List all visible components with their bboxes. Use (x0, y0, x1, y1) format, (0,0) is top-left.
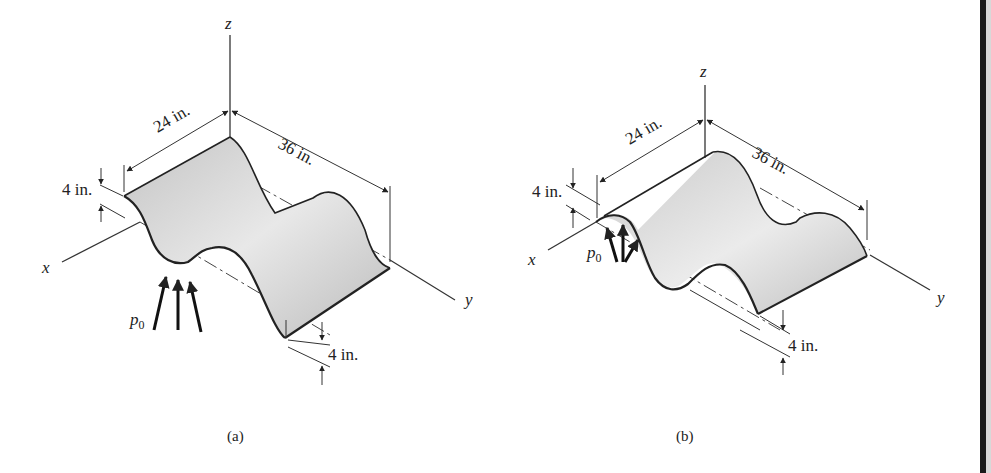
x-axis-a (62, 222, 140, 262)
load-label-b: p0 (587, 243, 602, 266)
load-arrows-a (154, 277, 201, 332)
dim-4-bottom-label-a: 4 in. (328, 345, 358, 365)
dim-4-top-label-b: 4 in. (532, 182, 562, 202)
z-axis-label-a: z (225, 14, 232, 34)
figure-b (548, 85, 930, 375)
x-axis-label-a: x (42, 258, 50, 278)
z-axis-label-b: z (700, 62, 707, 82)
dim-4-top-label-a: 4 in. (62, 180, 92, 200)
y-axis-label-a: y (465, 290, 473, 310)
x-axis-label-b: x (528, 250, 536, 270)
page-edge-shade (986, 0, 991, 473)
caption-b: (b) (676, 428, 694, 445)
figure-canvas (0, 0, 991, 473)
y-axis-b (870, 255, 930, 290)
figure-a (62, 35, 455, 385)
caption-a: (a) (227, 428, 244, 445)
corrugated-surface-a (124, 137, 390, 338)
dim-4-bottom-label-b: 4 in. (788, 336, 818, 356)
load-label-a: p0 (130, 310, 145, 333)
y-axis-a (390, 260, 455, 300)
y-axis-label-b: y (937, 288, 945, 308)
